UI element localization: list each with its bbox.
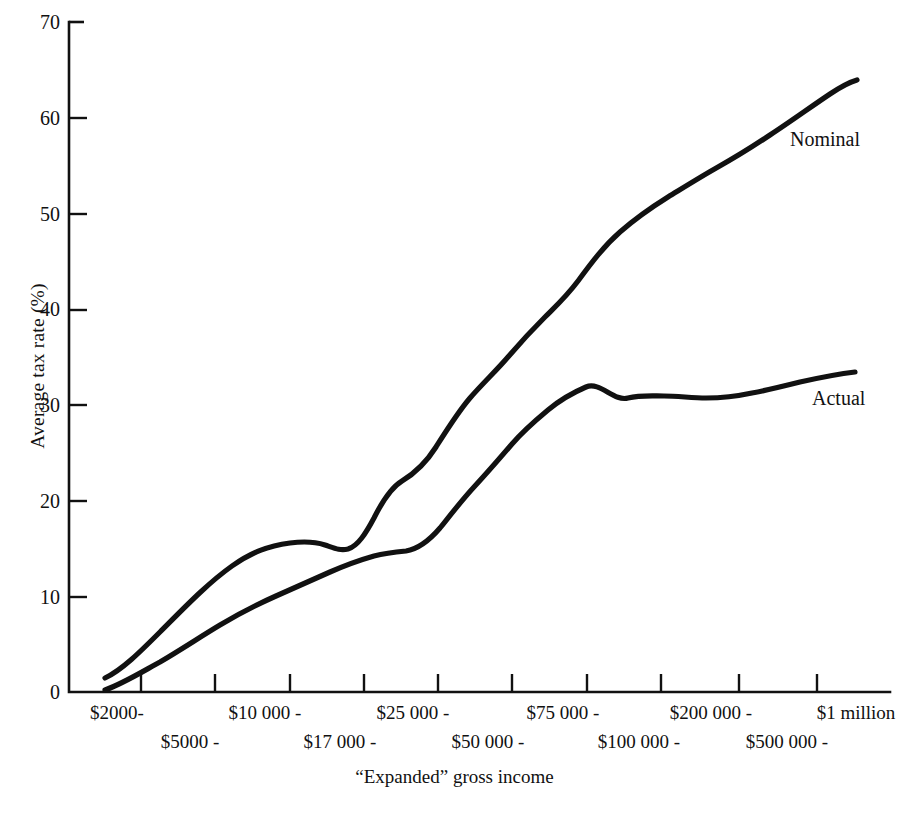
plot-area [0, 0, 909, 814]
x-tick-label: $100 000 - [598, 729, 680, 755]
x-tick-label: $2000- [90, 700, 144, 726]
x-axis-tick-labels-bottom: $5000 - $17 000 - $50 000 - $100 000 - $… [0, 729, 909, 757]
x-axis-title: “Expanded” gross income [0, 766, 909, 788]
x-tick-label: $10 000 - [229, 700, 302, 726]
x-tick-marks [141, 674, 817, 692]
x-tick-label: $5000 - [161, 729, 220, 755]
series-label-actual: Actual [812, 387, 865, 409]
x-tick-label: $500 000 - [746, 729, 828, 755]
x-tick-label: $25 000 - [377, 700, 450, 726]
series-line-nominal [105, 80, 857, 678]
x-tick-label: $1 million [817, 700, 896, 726]
y-tick-marks [69, 118, 87, 597]
x-axis-tick-labels-top: $2000- $10 000 - $25 000 - $75 000 - $20… [0, 700, 909, 728]
chart-figure: Average tax rate (%) 70 60 50 40 30 20 1… [0, 0, 909, 814]
x-tick-label: $200 000 - [670, 700, 752, 726]
series-label-nominal: Nominal [790, 128, 860, 150]
x-tick-label: $17 000 - [304, 729, 377, 755]
axis-lines [69, 22, 890, 692]
series-line-actual [105, 372, 855, 690]
x-tick-label: $50 000 - [452, 729, 525, 755]
x-tick-label: $75 000 - [527, 700, 600, 726]
